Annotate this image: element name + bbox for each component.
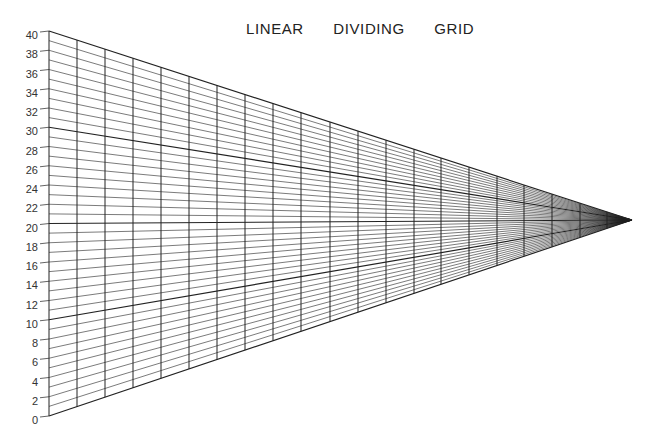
y-axis-label: 12: [10, 299, 38, 311]
division-line: [49, 220, 632, 320]
division-line: [49, 220, 632, 368]
tick-mark: [40, 243, 49, 244]
y-axis-label: 30: [10, 125, 38, 137]
y-axis-label: 26: [10, 164, 38, 176]
division-line: [49, 118, 632, 220]
y-axis-label: 4: [10, 376, 38, 388]
division-line: [49, 89, 632, 220]
linear-dividing-grid: [0, 0, 649, 441]
y-axis-label: 16: [10, 260, 38, 272]
y-axis-label: 2: [10, 395, 38, 407]
y-axis-label: 8: [10, 337, 38, 349]
y-axis-label: 36: [10, 68, 38, 80]
division-line: [49, 220, 632, 301]
division-line: [49, 220, 632, 272]
division-line: [49, 60, 632, 220]
division-line: [49, 31, 632, 220]
y-axis-label: 0: [10, 414, 38, 426]
y-axis-label: 22: [10, 202, 38, 214]
tick-mark: [40, 397, 49, 398]
division-line: [49, 220, 632, 339]
division-line: [49, 147, 632, 221]
division-line: [49, 98, 632, 220]
tick-mark: [40, 339, 49, 340]
tick-mark: [40, 301, 49, 302]
y-axis-label: 28: [10, 145, 38, 157]
division-line: [49, 220, 632, 378]
tick-mark: [40, 358, 49, 359]
y-axis-label: 34: [10, 87, 38, 99]
y-axis-label: 14: [10, 279, 38, 291]
y-axis-label: 18: [10, 241, 38, 253]
y-axis-label: 24: [10, 183, 38, 195]
y-axis-label: 38: [10, 48, 38, 60]
y-axis-label: 6: [10, 356, 38, 368]
division-line: [49, 220, 632, 416]
y-axis-label: 20: [10, 222, 38, 234]
tick-mark: [40, 31, 49, 32]
division-line: [49, 220, 632, 281]
division-line: [49, 50, 632, 220]
tick-mark: [40, 166, 49, 167]
tick-mark: [40, 147, 49, 148]
tick-mark: [40, 127, 49, 128]
tick-mark: [40, 262, 49, 263]
division-line: [49, 156, 632, 220]
tick-mark: [40, 70, 49, 71]
tick-mark: [40, 224, 49, 225]
division-line: [49, 108, 632, 220]
tick-mark: [40, 281, 49, 282]
y-axis-label: 10: [10, 318, 38, 330]
division-line: [49, 220, 632, 310]
y-axis-label: 32: [10, 106, 38, 118]
tick-mark: [40, 50, 49, 51]
tick-mark: [40, 89, 49, 90]
y-axis-label: 40: [10, 29, 38, 41]
division-line: [49, 220, 632, 397]
tick-mark: [40, 320, 49, 321]
division-line: [49, 220, 632, 387]
tick-mark: [40, 378, 49, 379]
tick-mark: [40, 185, 49, 186]
tick-mark: [40, 416, 49, 417]
tick-mark: [40, 108, 49, 109]
tick-mark: [40, 204, 49, 205]
